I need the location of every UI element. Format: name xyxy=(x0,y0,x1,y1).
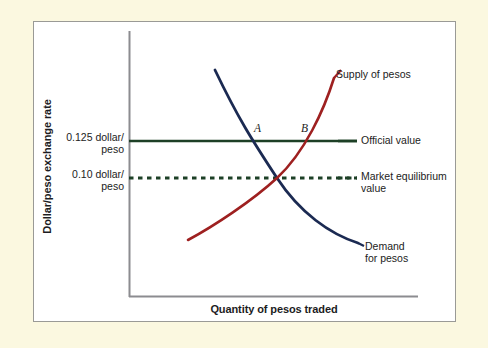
legend-label-official-value: Official value xyxy=(361,134,421,146)
y-tick-label-equilibrium-value: 0.10 dollar/ peso xyxy=(44,168,124,193)
legend-label-supply: Supply of pesos xyxy=(336,68,411,80)
legend-label-demand: Demand for pesos xyxy=(365,240,408,265)
legend-label-market-equilibrium: Market equilibrium value xyxy=(361,170,447,195)
y-tick-label-official-value: 0.125 dollar/ peso xyxy=(44,131,124,156)
y-axis-title: Dollar/peso exchange rate xyxy=(41,61,54,271)
point-label-a: A xyxy=(254,122,261,136)
point-label-b: B xyxy=(301,122,308,136)
figure-root: Dollar/peso exchange rate Quantity of pe… xyxy=(0,0,488,348)
x-axis-title: Quantity of pesos traded xyxy=(129,303,419,316)
